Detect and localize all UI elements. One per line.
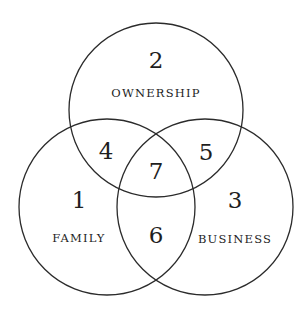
region-number-business: 3 — [228, 187, 243, 213]
region-number-ownership-business: 5 — [199, 139, 214, 165]
family-label: FAMILY — [52, 231, 105, 245]
venn-diagram: 2 OWNERSHIP 1 FAMILY 3 BUSINESS 4 5 7 6 — [0, 0, 307, 312]
business-label: BUSINESS — [198, 232, 272, 246]
region-number-family-ownership: 4 — [99, 138, 114, 164]
region-number-all-three: 7 — [149, 158, 164, 184]
region-number-family-business: 6 — [149, 222, 164, 248]
region-number-ownership: 2 — [149, 47, 164, 73]
ownership-label: OWNERSHIP — [111, 86, 200, 100]
region-number-family: 1 — [72, 187, 87, 213]
